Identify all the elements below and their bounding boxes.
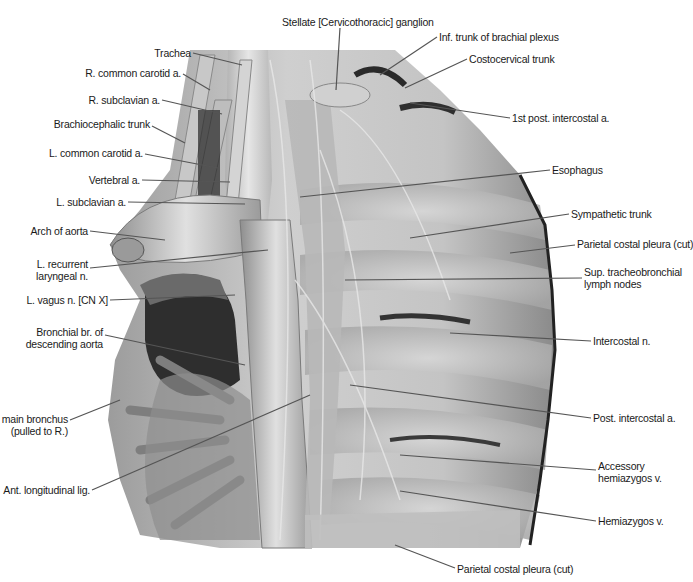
label-trachea: Trachea: [154, 47, 191, 59]
label-l-vagus-n: L. vagus n. [CN X]: [26, 294, 108, 306]
label-l-main-bronchus: L. main bronchus (pulled to R.): [0, 413, 68, 437]
label-inf-trunk-brachial-plexus: Inf. trunk of brachial plexus: [439, 31, 559, 43]
label-bronchial-br-descending-aorta: Bronchial br. of descending aorta: [26, 326, 103, 350]
label-post-intercostal-a: Post. intercostal a.: [593, 412, 675, 424]
label-vertebral-a: Vertebral a.: [89, 174, 140, 186]
label-l-subclavian-a: L. subclavian a.: [56, 196, 126, 208]
label-r-common-carotid-a: R. common carotid a.: [85, 67, 181, 79]
label-parietal-costal-pleura-cut-lower: Parietal costal pleura (cut): [457, 563, 573, 575]
label-brachiocephalic-trunk: Brachiocephalic trunk: [54, 118, 150, 130]
label-sympathetic-trunk: Sympathetic trunk: [571, 208, 652, 220]
label-l-common-carotid-a: L. common carotid a.: [49, 147, 143, 159]
label-l-recurrent-laryngeal-n: L. recurrent laryngeal n.: [36, 258, 88, 282]
label-intercostal-n: Intercostal n.: [593, 335, 650, 347]
label-hemiazygos-v: Hemiazygos v.: [598, 515, 663, 527]
label-parietal-costal-pleura-cut-upper: Parietal costal pleura (cut): [577, 238, 693, 250]
label-arch-of-aorta: Arch of aorta: [30, 225, 88, 237]
label-ant-longitudinal-lig: Ant. longitudinal lig.: [3, 484, 90, 496]
label-stellate-ganglion: Stellate [Cervicothoracic] ganglion: [282, 16, 434, 28]
label-accessory-hemiazygos-v: Accessory hemiazygos v.: [598, 460, 662, 484]
label-1st-post-intercostal-a: 1st post. intercostal a.: [512, 112, 609, 124]
label-esophagus: Esophagus: [552, 164, 603, 176]
label-sup-tracheobronchial-lymph-nodes: Sup. tracheobronchial lymph nodes: [584, 266, 682, 290]
label-costocervical-trunk: Costocervical trunk: [469, 53, 554, 65]
label-r-subclavian-a: R. subclavian a.: [88, 94, 160, 106]
